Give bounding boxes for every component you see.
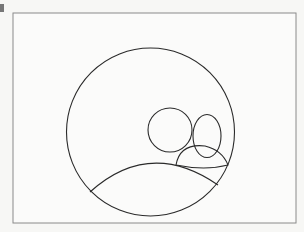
figure-frame bbox=[13, 13, 296, 223]
figure-canvas bbox=[0, 0, 304, 232]
